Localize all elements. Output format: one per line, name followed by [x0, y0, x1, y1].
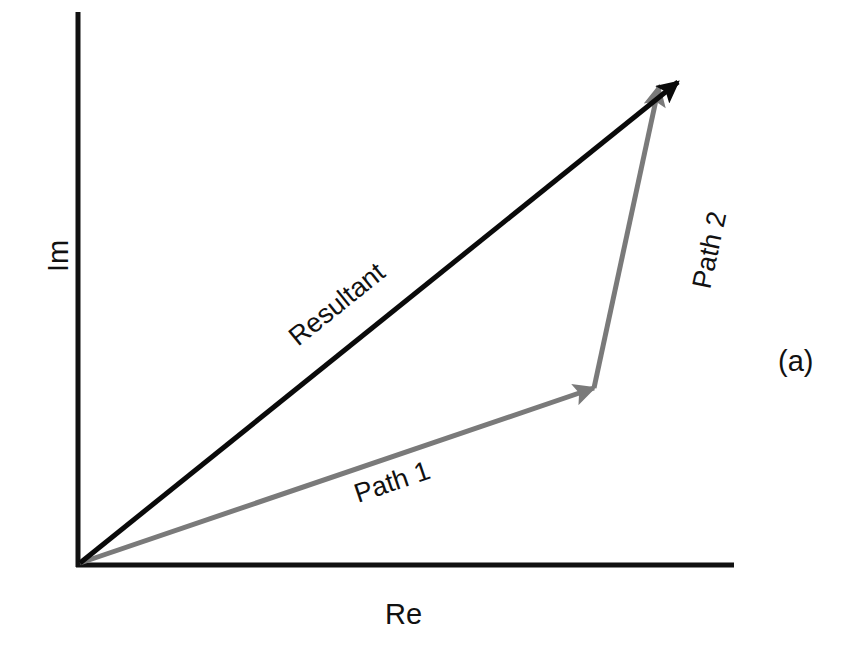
path2-label: Path 2 — [687, 209, 733, 292]
re-axis-label: Re — [385, 598, 422, 630]
path1-label: Path 1 — [350, 455, 434, 509]
phasor-diagram: Resultant Path 1 Path 2 Im Re (a) — [0, 0, 842, 647]
resultant-label: Resultant — [283, 257, 391, 352]
panel-label: (a) — [778, 345, 813, 377]
path1-vector — [80, 388, 594, 563]
im-axis-label: Im — [42, 240, 74, 272]
path2-vector — [594, 86, 659, 388]
